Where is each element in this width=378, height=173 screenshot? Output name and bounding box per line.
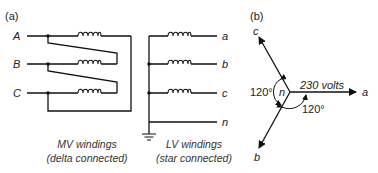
lv-caption: LV windings xyxy=(166,138,223,150)
neutral-label: n xyxy=(279,86,285,98)
phase-label-A: A xyxy=(12,30,20,42)
transformer-diagram: (a) A B C MV windings (delta connected) xyxy=(0,0,378,173)
phasor-label-a: a xyxy=(362,86,368,98)
phasor-label-b: b xyxy=(254,151,260,163)
panel-b-tag: (b) xyxy=(250,10,263,22)
phasor-b-arrow xyxy=(259,92,290,148)
mv-caption: MV windings xyxy=(57,138,117,150)
coil-icon xyxy=(168,89,191,93)
angle-bottom-label: 120° xyxy=(302,103,325,115)
phasor-diagram: n a b c 230 volts 120° 120° xyxy=(250,25,368,163)
phase-label-b: b xyxy=(222,58,228,70)
mv-caption-sub: (delta connected) xyxy=(46,152,127,164)
ground-icon xyxy=(142,134,156,140)
lv-caption-sub: (star connected) xyxy=(156,152,232,164)
coil-icon xyxy=(78,89,101,93)
mv-delta-windings: A B C xyxy=(12,30,131,111)
phasor-label-c: c xyxy=(253,25,259,37)
phase-label-B: B xyxy=(13,58,20,70)
phase-label-C: C xyxy=(13,87,21,99)
angle-left-label: 120° xyxy=(250,86,273,98)
coil-icon xyxy=(78,32,101,36)
magnitude-label: 230 volts xyxy=(299,79,345,91)
coil-icon xyxy=(78,60,101,64)
lv-star-windings: a b c n xyxy=(142,30,228,140)
coil-icon xyxy=(168,60,191,64)
phase-label-a: a xyxy=(222,30,228,42)
phasor-c-arrow xyxy=(259,37,290,92)
phase-label-c: c xyxy=(222,87,228,99)
phase-label-n: n xyxy=(222,116,228,128)
panel-a-tag: (a) xyxy=(5,10,18,22)
coil-icon xyxy=(168,32,191,36)
